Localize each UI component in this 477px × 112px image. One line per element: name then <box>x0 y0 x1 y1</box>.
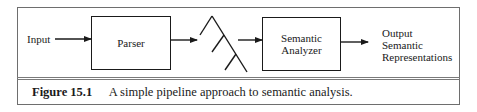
parse-tree-icon <box>200 16 247 72</box>
figure-caption: Figure 15.1 A simple pipeline approach t… <box>32 85 353 100</box>
figure-number: Figure 15.1 <box>32 85 92 99</box>
caption-text: A simple pipeline approach to semantic a… <box>109 85 353 99</box>
